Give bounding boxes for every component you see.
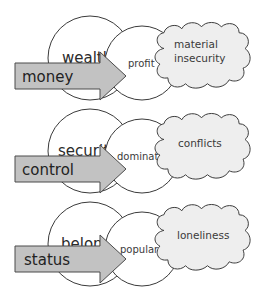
cloud-label-line2: insecurity: [174, 52, 226, 64]
arrow-label: money: [22, 68, 74, 86]
cloud-label-line1: material: [174, 38, 218, 50]
row-status: belonging popular loneliness status: [15, 202, 250, 286]
small-circle-label: popular: [120, 244, 159, 255]
cloud-label-line1: conflicts: [178, 137, 222, 149]
small-circle-label: profit: [128, 58, 155, 69]
row-money: wealth profit material insecurity money: [15, 16, 250, 100]
arrow-label: status: [24, 251, 70, 269]
arrow-label: control: [22, 161, 74, 179]
cloud-label-line1: loneliness: [177, 229, 229, 241]
row-control: security domination conflicts control: [15, 109, 250, 193]
diagram-canvas: wealth profit material insecurity money …: [0, 0, 265, 291]
